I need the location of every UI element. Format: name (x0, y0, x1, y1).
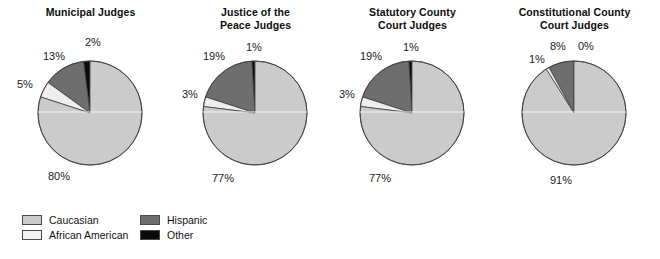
pie-slice (522, 61, 626, 165)
pie-slice-percent-label: 8% (550, 40, 566, 52)
legend-swatch-icon (140, 230, 160, 240)
pie-slice-percent-label: 77% (369, 172, 391, 184)
chart-legend: CaucasianAfrican AmericanHispanicOther (22, 213, 322, 247)
legend-item-label: Caucasian (49, 214, 99, 226)
pie-chart-group: Municipal Judges2%13%5%80%Justice of the… (0, 0, 660, 200)
pie-slice-percent-label: 19% (360, 50, 382, 62)
pie-graphic: 2%13%5%80% (8, 0, 173, 200)
legend-item-label: Hispanic (167, 214, 207, 226)
pie-slice-percent-label: 91% (550, 174, 572, 186)
pie-chart-panel: Justice of the Peace Judges1%19%3%77% (173, 0, 338, 200)
pie-svg (330, 0, 495, 200)
pie-graphic: 1%19%3%77% (330, 0, 495, 200)
pie-svg (8, 0, 173, 200)
pie-slice-percent-label: 3% (339, 88, 355, 100)
pie-slice-percent-label: 3% (182, 88, 198, 100)
pie-graphic: 0%8%1%91% (492, 0, 657, 200)
pie-chart-panel: Statutory County Court Judges1%19%3%77% (330, 0, 495, 200)
legend-swatch-icon (22, 230, 42, 240)
legend-item: Other (140, 228, 193, 241)
pie-chart-panel: Constitutional County Court Judges0%8%1%… (492, 0, 657, 200)
legend-item: Caucasian (22, 213, 99, 226)
pie-svg (173, 0, 338, 200)
pie-slice-percent-label: 77% (212, 172, 234, 184)
pie-svg (492, 0, 657, 200)
pie-chart-panel: Municipal Judges2%13%5%80% (8, 0, 173, 200)
pie-slice-percent-label: 0% (578, 40, 594, 52)
pie-graphic: 1%19%3%77% (173, 0, 338, 200)
pie-slice-percent-label: 80% (48, 170, 70, 182)
pie-slice-percent-label: 19% (203, 50, 225, 62)
legend-item: African American (22, 228, 128, 241)
legend-swatch-icon (22, 215, 42, 225)
pie-slice-percent-label: 13% (43, 50, 65, 62)
pie-slice-percent-label: 1% (246, 41, 262, 53)
legend-item-label: African American (49, 229, 128, 241)
pie-slice-percent-label: 5% (17, 78, 33, 90)
pie-slice-percent-label: 1% (403, 41, 419, 53)
legend-item: Hispanic (140, 213, 207, 226)
pie-slice-percent-label: 1% (529, 53, 545, 65)
pie-slice-percent-label: 2% (85, 36, 101, 48)
legend-swatch-icon (140, 215, 160, 225)
legend-item-label: Other (167, 229, 193, 241)
